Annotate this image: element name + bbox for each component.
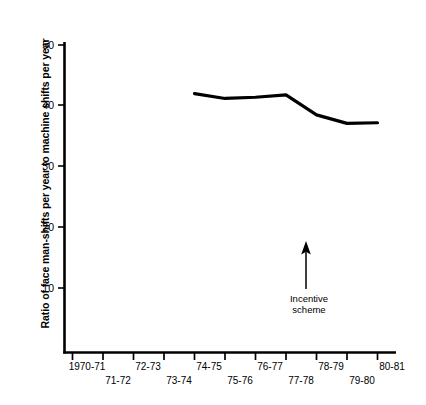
- y-tick-label-20: 20: [42, 221, 54, 233]
- chart-container: Ratio of face man-shifts per year to mac…: [0, 0, 426, 405]
- x-tick-label-lower-4: 79-80: [349, 375, 375, 386]
- incentive-scheme-arrow-icon: [301, 241, 311, 289]
- x-tick-label-lower-3: 77-78: [288, 375, 314, 386]
- x-tick-label-upper-1: 72-73: [135, 361, 161, 372]
- annotation-label-line1: Incentive: [290, 293, 328, 304]
- y-tick-label-10: 10: [42, 282, 54, 294]
- x-tick-label-lower-1: 73-74: [166, 375, 192, 386]
- y-tick-label-30: 30: [42, 160, 54, 172]
- x-tick-label-upper-5: 80-81: [379, 361, 405, 372]
- y-tick-label-50: 50: [42, 39, 54, 51]
- x-tick-label-upper-4: 78-79: [318, 361, 344, 372]
- y-tick-label-40: 40: [42, 99, 54, 111]
- x-tick-label-upper-3: 76-77: [257, 361, 283, 372]
- x-tick-label-upper-0: 1970-71: [69, 361, 106, 372]
- data-series-line: [195, 94, 378, 124]
- x-tick-label-lower-2: 75-76: [227, 375, 253, 386]
- annotation-label-line2: scheme: [292, 304, 325, 315]
- x-tick-label-upper-2: 74-75: [196, 361, 222, 372]
- x-tick-label-lower-0: 71-72: [105, 375, 131, 386]
- line-chart-plot: 50 40 30 20 10 1970-71 72-73 74-75 76-77…: [0, 0, 426, 405]
